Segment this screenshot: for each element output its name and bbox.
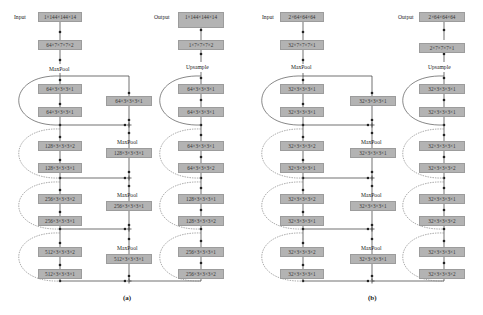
maxpool-label: MaxPool	[361, 139, 382, 146]
enc-conv-box: 128×3×3×3×1	[38, 163, 82, 173]
dec-conv-box: 32×3×3×3×2	[419, 216, 465, 226]
dec-conv-box: 256×3×3×3×2	[178, 269, 224, 279]
dec-conv-box: 32×3×3×3×2	[419, 269, 465, 279]
enc-conv-box: 32×3×3×3×2	[280, 247, 324, 257]
enc-conv-box: 32×3×3×3×1	[280, 163, 324, 173]
output-box: 2×64×64×64	[419, 12, 465, 22]
panel-caption: (a)	[123, 294, 131, 302]
input-label: Input	[14, 14, 26, 21]
enc-conv-box: 64×3×3×3×1	[38, 107, 82, 117]
dec-conv-box: 64×3×3×3×2	[178, 163, 224, 173]
upsample-label: Upsample	[428, 64, 451, 71]
shortcut-conv-box: 32×3×3×3×1	[350, 201, 396, 211]
shortcut-conv-box: 64×3×3×3×1	[106, 96, 152, 106]
dec-conv-box: 64×3×3×3×1	[178, 141, 224, 151]
enc-conv-box: 32×3×3×3×1	[280, 107, 324, 117]
maxpool-label: MaxPool	[117, 245, 138, 252]
dec-conv-box: 256×3×3×3×1	[178, 247, 224, 257]
maxpool-label: MaxPool	[291, 64, 312, 71]
enc-conv-box: 512×3×3×3×2	[38, 247, 82, 257]
input-box: 1×144×144×14	[38, 12, 82, 22]
dec-conv-box: 32×3×3×3×2	[419, 163, 465, 173]
head-conv-box: 1×7×7×7×2	[178, 40, 224, 50]
dec-conv-box: 32×3×3×3×1	[419, 194, 465, 204]
output-label: Output	[154, 14, 170, 21]
input-box: 2×64×64×64	[280, 12, 324, 22]
dec-conv-box: 32×3×3×3×1	[419, 107, 465, 117]
enc-conv-box: 256×3×3×3×1	[38, 216, 82, 226]
panel-caption: (b)	[368, 294, 377, 302]
enc-conv-box: 32×3×3×3×1	[280, 216, 324, 226]
shortcut-conv-box: 128×3×3×3×1	[106, 148, 152, 158]
head-conv-box: 2×7×7×7×1	[419, 43, 465, 53]
maxpool-label: MaxPool	[361, 192, 382, 199]
enc-conv-box: 64×3×3×3×1	[38, 84, 82, 94]
stem-conv-box: 32×7×7×7×1	[280, 40, 324, 50]
shortcut-conv-box: 32×3×3×3×1	[350, 96, 396, 106]
enc-conv-box: 32×3×3×3×1	[280, 84, 324, 94]
upsample-label: Upsample	[186, 64, 209, 71]
dec-conv-box: 64×3×3×3×1	[178, 107, 224, 117]
shortcut-conv-box: 512×3×3×3×1	[106, 254, 152, 264]
enc-conv-box: 32×3×3×3×2	[280, 141, 324, 151]
dec-conv-box: 64×3×3×3×1	[178, 84, 224, 94]
dec-conv-box: 128×3×3×3×2	[178, 216, 224, 226]
input-label: Input	[262, 14, 274, 21]
shortcut-conv-box: 32×3×3×3×1	[350, 254, 396, 264]
enc-conv-box: 128×3×3×3×2	[38, 141, 82, 151]
shortcut-conv-box: 256×3×3×3×1	[106, 201, 152, 211]
maxpool-label: MaxPool	[361, 245, 382, 252]
dec-conv-box: 32×3×3×3×1	[419, 141, 465, 151]
output-box: 1×144×144×14	[178, 12, 224, 28]
enc-conv-box: 32×3×3×3×1	[280, 269, 324, 279]
maxpool-label: MaxPool	[117, 192, 138, 199]
maxpool-label: MaxPool	[117, 139, 138, 146]
dec-conv-box: 32×3×3×3×1	[419, 247, 465, 257]
enc-conv-box: 256×3×3×3×2	[38, 194, 82, 204]
enc-conv-box: 32×3×3×3×2	[280, 194, 324, 204]
maxpool-label: MaxPool	[49, 66, 70, 73]
enc-conv-box: 512×3×3×3×1	[38, 269, 82, 279]
stem-conv-box: 64×7×7×7×2	[38, 40, 82, 50]
dec-conv-box: 32×3×3×3×1	[419, 84, 465, 94]
output-label: Output	[398, 14, 414, 21]
dec-conv-box: 128×3×3×3×1	[178, 194, 224, 204]
diagram-root: Input 1×144×144×14 64×7×7×7×2 MaxPool 64…	[0, 0, 483, 315]
shortcut-conv-box: 32×3×3×3×1	[350, 148, 396, 158]
